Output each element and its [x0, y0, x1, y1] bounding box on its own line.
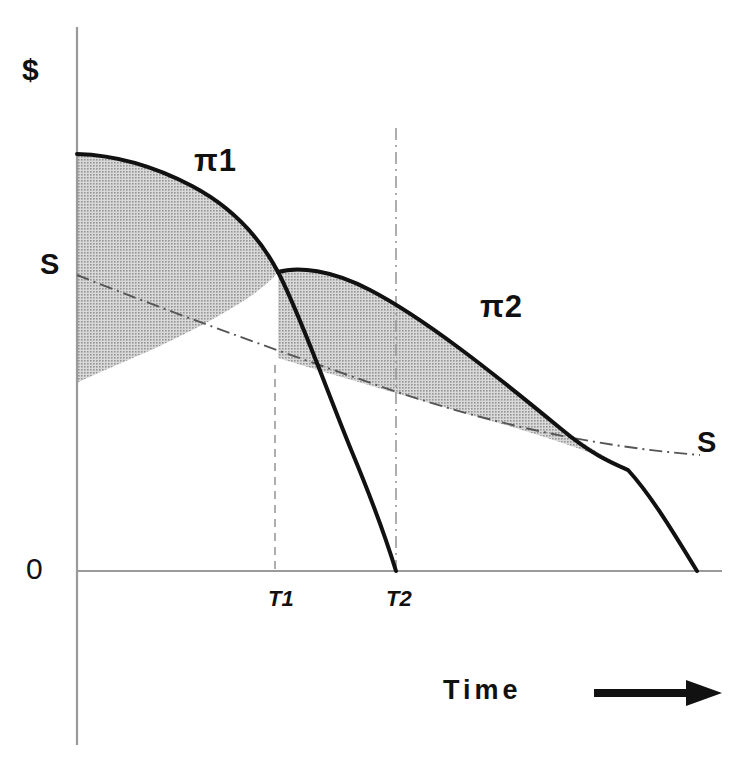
x-tick-label-t2: T2: [386, 588, 412, 610]
shaded-region-pi1: [77, 155, 278, 383]
y-axis-title: $: [22, 55, 39, 85]
salvage-line-label: S: [697, 428, 716, 457]
chart-canvas: [0, 0, 753, 764]
economic-replacement-chart: $ S 0 π1 π2 S T1 T2 Time: [0, 0, 753, 764]
x-tick-label-t1: T1: [268, 588, 294, 610]
arrow-right-icon: [594, 680, 722, 706]
curve-pi2-label: π2: [480, 291, 523, 322]
y-axis-zero-label: 0: [26, 554, 43, 584]
y-axis-salvage-label: S: [40, 250, 59, 279]
curve-pi1-label: π1: [194, 145, 237, 176]
x-axis-title: Time: [443, 677, 522, 704]
